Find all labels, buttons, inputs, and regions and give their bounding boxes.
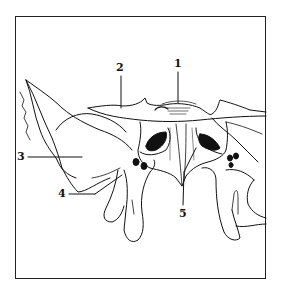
lesser-wings	[88, 98, 266, 122]
sphenoid-bone-drawing	[0, 0, 283, 292]
left-greater-wing	[20, 80, 132, 192]
label-2: 2	[116, 62, 124, 73]
sphenoid-body	[138, 122, 228, 186]
label-5: 5	[179, 208, 187, 219]
label-3: 3	[17, 151, 25, 162]
right-pterygoid-process	[202, 168, 254, 240]
left-pterygoid-process	[92, 160, 155, 242]
right-greater-wing	[212, 118, 266, 227]
label-1: 1	[174, 58, 182, 69]
label-4: 4	[58, 188, 66, 199]
leader-lines	[28, 72, 196, 205]
